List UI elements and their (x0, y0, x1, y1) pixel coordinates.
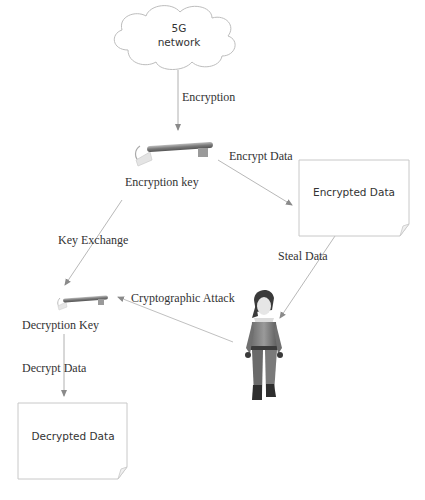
edge-label-key-exchange: Key Exchange (58, 233, 128, 248)
decryption-key-label: Decryption Key (22, 318, 99, 333)
edge-label-encrypt-data: Encrypt Data (229, 149, 293, 164)
edge-label-encryption: Encryption (182, 90, 235, 105)
decrypted-data-label: Decrypted Data (18, 430, 128, 442)
decryption-key-icon (58, 295, 108, 310)
edge-label-decrypt-data: Decrypt Data (22, 361, 86, 376)
encryption-key-label: Encryption key (125, 175, 199, 190)
encryption-key-icon (136, 142, 214, 166)
edge-label-cryptographic-attack: Cryptographic Attack (131, 291, 235, 306)
network-label-line1: 5G (164, 22, 194, 34)
network-label-line2: network (152, 36, 206, 48)
attacker-person-icon (245, 290, 283, 400)
encrypted-data-label: Encrypted Data (299, 186, 409, 198)
edge-encrypt-data (218, 160, 292, 205)
encrypted-data-box (299, 160, 409, 236)
edge-label-steal-data: Steal Data (278, 249, 328, 264)
